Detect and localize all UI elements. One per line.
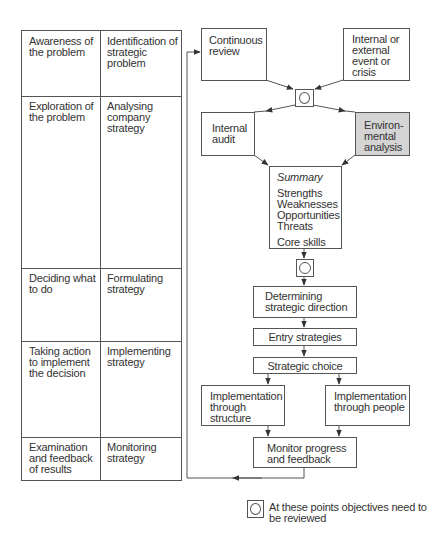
review-point-1 <box>295 89 314 107</box>
summary-item: Threats <box>277 221 341 232</box>
internal-audit-box: Internal audit <box>201 112 255 156</box>
implementation-structure-box: Implementation through structure <box>201 385 285 426</box>
circle-icon <box>299 262 311 274</box>
summary-title: Summary <box>277 172 341 183</box>
environmental-analysis-box: Environ-mental analysis <box>355 112 410 156</box>
entry-strategies-box: Entry strategies <box>253 328 357 346</box>
monitor-progress-box: Monitor progress and feedback <box>253 437 357 468</box>
review-point-2 <box>296 259 314 277</box>
summary-box: Summary Strengths Weaknesses Opportuniti… <box>269 166 342 249</box>
circle-icon <box>299 92 310 104</box>
internal-external-event-box: Internal or external event or crisis <box>343 28 410 81</box>
continuous-review-box: Continuous review <box>201 28 267 81</box>
legend-symbol <box>247 500 264 518</box>
strategic-choice-box: Strategic choice <box>253 357 357 374</box>
implementation-people-box: Implementation through people <box>325 385 410 426</box>
circle-icon <box>250 503 261 515</box>
summary-core-skills: Core skills <box>277 237 341 248</box>
determining-direction-box: Determining strategic direction <box>253 286 357 318</box>
legend-text: At these points objectives need to be re… <box>269 502 434 524</box>
flow-connectors <box>0 0 439 547</box>
